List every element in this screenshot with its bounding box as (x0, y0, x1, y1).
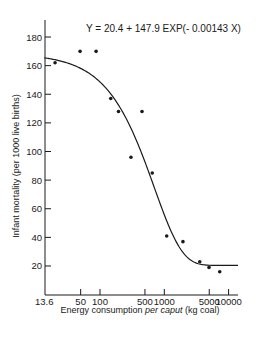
data-point (218, 270, 222, 274)
data-point (150, 171, 154, 175)
y-tick-label: 140 (26, 89, 42, 100)
y-tick-label: 160 (26, 60, 42, 71)
data-point (140, 110, 144, 114)
x-tick-label: 13.6 (35, 296, 54, 307)
data-point (117, 110, 121, 114)
y-tick-label: 100 (26, 146, 42, 157)
equation-label: Y = 20.4 + 147.9 EXP(- 0.00143 X) (86, 23, 241, 34)
x-axis-label-part1: Energy consumption (60, 305, 145, 315)
fitted-curve (44, 58, 238, 266)
data-point (94, 50, 98, 54)
axes (45, 20, 238, 295)
data-point (53, 61, 57, 65)
data-point (198, 260, 202, 264)
y-tick-label: 120 (26, 117, 42, 128)
y-tick-label: 80 (31, 175, 42, 186)
y-axis-label: Infant mortality (per 1000 live births) (11, 94, 21, 238)
x-axis-label-part3: (kg coal) (183, 305, 220, 315)
data-point (165, 234, 169, 238)
data-point (129, 155, 133, 159)
data-point (109, 97, 113, 101)
y-tick-label: 180 (26, 32, 42, 43)
x-axis-label: Energy consumption per caput (kg coal) (60, 305, 219, 315)
y-tick-label: 20 (31, 260, 42, 271)
y-tick-label: 60 (31, 203, 42, 214)
chart: 20406080100120140160180 13.6501005001000… (0, 0, 260, 338)
data-point (207, 266, 211, 270)
y-ticks: 20406080100120140160180 (26, 32, 51, 272)
data-point (78, 50, 82, 54)
x-axis-label-italic: per caput (144, 305, 183, 315)
data-points (53, 50, 221, 274)
y-tick-label: 40 (31, 232, 42, 243)
data-point (181, 240, 185, 244)
